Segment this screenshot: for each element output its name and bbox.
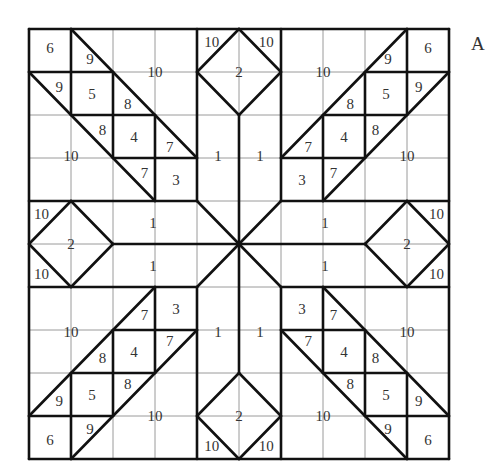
piece-number-label: 8	[347, 96, 355, 112]
piece-number-label: 6	[46, 40, 54, 56]
piece-number-label: 3	[298, 172, 306, 188]
piece-number-label: 7	[141, 307, 149, 323]
piece-number-label: 2	[403, 236, 411, 252]
piece-number-label: 7	[305, 139, 313, 155]
piece-number-label: 9	[86, 51, 94, 67]
piece-number-label: 9	[384, 421, 392, 437]
piece-number-label: 9	[415, 393, 423, 409]
piece-number-label: 1	[256, 148, 264, 164]
piece-number-label: 10	[64, 324, 79, 340]
piece-edge	[197, 373, 239, 416]
piece-number-label: 8	[99, 350, 107, 366]
piece-number-label: 10	[34, 266, 49, 282]
piece-number-label: 10	[259, 438, 274, 454]
piece-number-label: 6	[46, 432, 54, 448]
piece-number-label: 7	[330, 307, 338, 323]
piece-number-label: 9	[55, 393, 63, 409]
piece-number-label: 7	[166, 333, 174, 349]
piece-number-label: 5	[88, 86, 96, 102]
piece-number-label: 5	[382, 86, 390, 102]
piece-number-label: 2	[235, 64, 243, 80]
piece-number-label: 9	[384, 51, 392, 67]
piece-number-label: 10	[316, 64, 331, 80]
piece-number-label: 4	[340, 344, 348, 360]
piece-number-label: 9	[86, 421, 94, 437]
piece-number-label: 8	[347, 376, 355, 392]
piece-number-label: 7	[330, 165, 338, 181]
piece-number-label: 10	[429, 266, 444, 282]
piece-number-label: 1	[214, 148, 222, 164]
piece-edge	[71, 244, 113, 287]
piece-edge	[365, 201, 407, 244]
piece-number-label: 10	[204, 34, 219, 50]
piece-number-label: 9	[415, 79, 423, 95]
piece-number-label: 10	[34, 206, 49, 222]
piece-number-label: 10	[316, 408, 331, 424]
piece-number-label: 10	[204, 438, 219, 454]
piece-number-label: 1	[149, 258, 157, 274]
piece-number-label: 7	[305, 333, 313, 349]
piece-number-label: 8	[124, 376, 132, 392]
piece-number-label: 3	[172, 301, 180, 317]
piece-number-label: 8	[124, 96, 132, 112]
piece-number-label: 10	[259, 34, 274, 50]
figure-label: A	[471, 33, 485, 55]
piece-edge	[239, 201, 281, 244]
piece-number-label: 7	[166, 139, 174, 155]
piece-edge	[239, 244, 281, 287]
piece-number-label: 10	[148, 408, 163, 424]
piece-number-label: 1	[321, 215, 329, 231]
piece-number-label: 6	[424, 40, 432, 56]
piece-number-label: 3	[172, 172, 180, 188]
piece-edge	[365, 244, 407, 287]
piece-edge	[239, 373, 281, 416]
piece-number-label: 4	[130, 344, 138, 360]
piece-number-label: 10	[400, 324, 415, 340]
piece-number-label: 8	[99, 122, 107, 138]
piece-edge	[239, 72, 281, 115]
piece-number-label: 1	[256, 324, 264, 340]
piece-number-label: 2	[235, 408, 243, 424]
piece-edge	[71, 201, 113, 244]
piece-edge	[197, 244, 239, 287]
piece-number-label: 4	[130, 129, 138, 145]
piece-number-label: 7	[141, 165, 149, 181]
piece-edge	[197, 201, 239, 244]
piece-number-label: 10	[429, 206, 444, 222]
piece-number-label: 1	[149, 215, 157, 231]
piece-number-label: 10	[400, 148, 415, 164]
piece-number-label: 1	[214, 324, 222, 340]
piece-edge	[197, 72, 239, 115]
piece-number-label: 10	[148, 64, 163, 80]
piece-number-label: 4	[340, 129, 348, 145]
piece-number-label: 8	[372, 350, 380, 366]
quilt-block-svg: 6995884773101011102101699588477310101102…	[0, 0, 504, 470]
piece-number-label: 6	[424, 432, 432, 448]
piece-number-label: 5	[88, 387, 96, 403]
piece-number-label: 2	[67, 236, 75, 252]
piece-number-label: 5	[382, 387, 390, 403]
piece-number-label: 9	[55, 79, 63, 95]
piece-number-label: 10	[64, 148, 79, 164]
piece-number-label: 3	[298, 301, 306, 317]
piece-number-label: 1	[321, 258, 329, 274]
piece-number-label: 8	[372, 122, 380, 138]
